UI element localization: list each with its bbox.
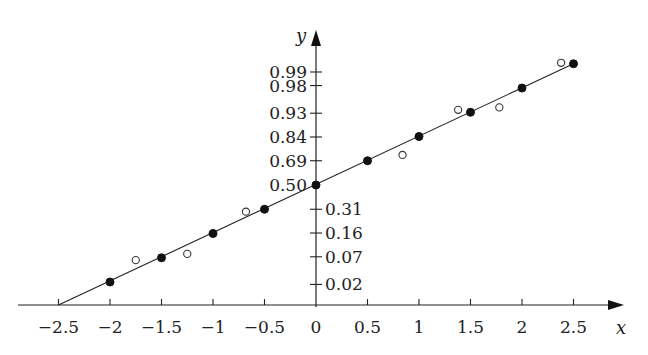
y-tick-label: 0.07: [325, 247, 363, 267]
y-tick-label: 0.84: [269, 127, 307, 147]
data-point-open: [455, 106, 462, 113]
x-axis-arrow-icon: [608, 300, 624, 310]
y-axis-arrow-icon: [311, 30, 321, 46]
data-point-open: [184, 250, 191, 257]
data-point-filled: [158, 254, 166, 262]
x-tick-label: −1: [200, 317, 225, 337]
y-tick-label: 0.98: [269, 76, 307, 96]
x-tick-label: −0.5: [244, 317, 285, 337]
data-point-open: [399, 151, 406, 158]
x-tick-label: −1.5: [141, 317, 182, 337]
data-point-open: [132, 257, 139, 264]
data-point-filled: [209, 230, 217, 238]
x-tick-label: −2: [97, 317, 122, 337]
data-point-filled: [106, 278, 114, 286]
y-tick-label: 0.16: [325, 223, 363, 243]
data-point-filled: [261, 205, 269, 213]
y-axis-label: y: [295, 25, 307, 46]
data-point-filled: [467, 108, 475, 116]
x-axis-label: x: [616, 317, 626, 338]
y-tick-label: 0.31: [325, 199, 363, 219]
x-tick-label: 1: [414, 317, 425, 337]
x-tick-label: 0.5: [354, 317, 381, 337]
x-tick-label: 0: [311, 317, 322, 337]
data-point-filled: [518, 84, 526, 92]
data-point-filled: [312, 181, 320, 189]
data-point-filled: [415, 133, 423, 141]
data-point-filled: [364, 157, 372, 165]
y-tick-label: 0.02: [325, 274, 363, 294]
data-point-open: [558, 59, 565, 66]
y-tick-label: 0.69: [269, 151, 307, 171]
x-tick-label: 1.5: [457, 317, 484, 337]
x-tick-label: 2: [517, 317, 528, 337]
data-point-filled: [570, 60, 578, 68]
y-tick-label: 0.93: [269, 103, 307, 123]
normal-probability-plot: x y −2.5−2−1.5−1−0.500.511.522.5 0.990.9…: [0, 0, 648, 355]
data-point-open: [242, 208, 249, 215]
x-tick-label: −2.5: [38, 317, 79, 337]
data-point-open: [496, 104, 503, 111]
x-tick-label: 2.5: [560, 317, 587, 337]
y-tick-label: 0.50: [269, 175, 307, 195]
